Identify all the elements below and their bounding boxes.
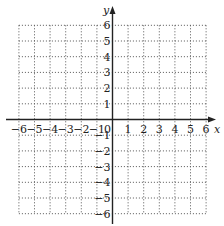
x-tick-label: −6 <box>11 123 27 136</box>
x-tick-label: 6 <box>203 123 210 136</box>
y-tick-label: 6 <box>104 19 111 32</box>
y-axis-label: y <box>102 4 110 17</box>
y-tick-label: −2 <box>94 145 110 158</box>
x-tick-label: 5 <box>187 123 194 136</box>
y-tick-label: −6 <box>94 208 110 221</box>
x-axis-label: x <box>214 123 221 136</box>
y-tick-label: −1 <box>94 129 110 142</box>
x-tick-label: 1 <box>125 123 132 136</box>
y-tick-label: 4 <box>104 51 111 64</box>
y-axis-arrow-icon <box>110 6 116 14</box>
x-tick-label: −3 <box>58 123 74 136</box>
y-tick-label: −4 <box>94 176 110 189</box>
x-tick-label: −2 <box>73 123 89 136</box>
x-tick-label: 3 <box>156 123 163 136</box>
x-tick-label: 2 <box>140 123 147 136</box>
y-tick-label: 3 <box>104 66 111 79</box>
y-tick-label: −3 <box>94 161 110 174</box>
y-tick-label: −5 <box>94 192 110 205</box>
y-tick-label: 2 <box>104 82 111 95</box>
coordinate-plane: −6−5−4−3−2−10123456654321−1−2−3−4−5−6 x … <box>0 0 224 226</box>
y-tick-label: 5 <box>104 35 111 48</box>
y-tick-label: 1 <box>104 98 111 111</box>
x-tick-label: −5 <box>26 123 42 136</box>
x-tick-label: 4 <box>171 123 178 136</box>
x-tick-label: −4 <box>42 123 58 136</box>
axes <box>6 6 216 224</box>
